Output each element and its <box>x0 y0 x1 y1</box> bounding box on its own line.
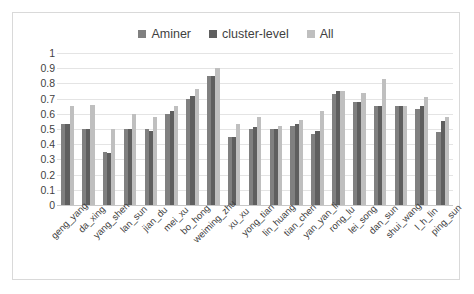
plot-wrapper: 10.90.80.70.60.50.40.30.20.10 geng_yangd… <box>13 53 461 279</box>
bar-group <box>307 53 328 205</box>
bar-group <box>245 53 266 205</box>
bar <box>361 93 365 205</box>
x-axis-labels: geng_yangda_xingyang_shenlan_sunjian_dum… <box>57 205 453 279</box>
bar <box>299 120 303 205</box>
bar <box>340 91 344 205</box>
bar <box>445 117 449 205</box>
bar-group <box>265 53 286 205</box>
bar-group <box>370 53 391 205</box>
x-axis-category: lan_sun <box>120 205 141 279</box>
legend-label-aminer: Aminer <box>151 27 191 41</box>
y-axis-tick: 0.7 <box>40 93 55 105</box>
bar-group <box>140 53 161 205</box>
bar <box>320 111 324 205</box>
y-axis-tick: 0.9 <box>40 62 55 74</box>
y-axis-tick: 0.1 <box>40 184 55 196</box>
x-axis-category: lin_huang <box>265 205 286 279</box>
y-axis-tick: 0.3 <box>40 153 55 165</box>
x-axis-category: rong_lu <box>328 205 349 279</box>
bar-group <box>391 53 412 205</box>
bar-group <box>99 53 120 205</box>
x-axis-category: tian_chen <box>286 205 307 279</box>
bar-group <box>328 53 349 205</box>
bar-group <box>161 53 182 205</box>
bar <box>111 129 115 205</box>
bar-group <box>182 53 203 205</box>
y-axis-tick: 0.2 <box>40 169 55 181</box>
x-axis-category: da_xing <box>78 205 99 279</box>
bar-group <box>203 53 224 205</box>
chart-legend: Aminer cluster-level All <box>13 27 459 41</box>
x-axis-category: yang_shen <box>99 205 120 279</box>
bar <box>236 124 240 205</box>
bar-group <box>120 53 141 205</box>
bar-group <box>411 53 432 205</box>
y-axis-tick: 1 <box>49 47 55 59</box>
x-axis-category: yong_tian <box>245 205 266 279</box>
bar <box>90 105 94 205</box>
legend-label-all: All <box>320 27 334 41</box>
bar-group <box>432 53 453 205</box>
bar <box>403 106 407 205</box>
x-axis-category: lei_song <box>349 205 370 279</box>
y-axis-tick: 0 <box>49 199 55 211</box>
x-axis-category: ping_sun <box>432 205 453 279</box>
bar-series-container <box>57 53 453 205</box>
legend-item-all: All <box>307 27 334 41</box>
bar-group <box>57 53 78 205</box>
bar <box>153 117 157 205</box>
bar <box>382 79 386 205</box>
y-axis-tick: 0.6 <box>40 108 55 120</box>
bar <box>132 114 136 205</box>
legend-label-cluster-level: cluster-level <box>222 27 289 41</box>
bar-group <box>349 53 370 205</box>
legend-item-cluster-level: cluster-level <box>209 27 289 41</box>
legend-swatch-aminer <box>138 30 146 38</box>
x-axis-category: mei_xu <box>161 205 182 279</box>
x-axis-category: geng_yang <box>57 205 78 279</box>
y-axis-tick: 0.4 <box>40 138 55 150</box>
x-axis-category: dan_sun <box>370 205 391 279</box>
legend-item-aminer: Aminer <box>138 27 191 41</box>
bar <box>174 106 178 205</box>
legend-swatch-all <box>307 30 315 38</box>
x-axis-category-label: ping_sun <box>428 202 463 237</box>
legend-swatch-cluster-level <box>209 30 217 38</box>
x-axis-category: weiming_zhu <box>203 205 224 279</box>
bar <box>278 126 282 205</box>
x-axis-category: xu_xu <box>224 205 245 279</box>
x-axis-category: jian_du <box>140 205 161 279</box>
bar <box>195 89 199 205</box>
bar <box>257 117 261 205</box>
plot-area <box>57 53 453 205</box>
bar-group <box>286 53 307 205</box>
bar-group <box>78 53 99 205</box>
bar-group <box>224 53 245 205</box>
y-axis-tick: 0.8 <box>40 77 55 89</box>
x-axis-category: l_h_lin <box>411 205 432 279</box>
y-axis-tick: 0.5 <box>40 123 55 135</box>
x-axis-category: yan_yan_li <box>307 205 328 279</box>
y-axis: 10.90.80.70.60.50.40.30.20.10 <box>23 53 55 205</box>
bar <box>70 106 74 205</box>
bar <box>424 97 428 205</box>
bar <box>215 68 219 205</box>
x-axis-category: shui_wang <box>391 205 412 279</box>
chart-card: Aminer cluster-level All 10.90.80.70.60.… <box>12 12 460 280</box>
